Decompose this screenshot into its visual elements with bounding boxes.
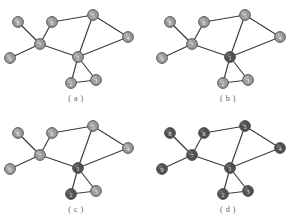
node-highlight xyxy=(244,76,249,81)
graph-node-6[interactable]: 6 xyxy=(47,17,58,28)
node-highlight xyxy=(74,53,79,58)
node-highlight xyxy=(124,144,129,149)
node-highlight xyxy=(14,129,19,134)
node-circle xyxy=(73,52,84,63)
graph-node-1[interactable]: 1 xyxy=(73,52,84,63)
graph-canvas-a: 123456789 xyxy=(0,0,152,96)
node-highlight xyxy=(67,79,72,84)
edge-group xyxy=(10,126,128,194)
edge-group xyxy=(162,15,280,83)
node-group: 123456789 xyxy=(157,121,286,200)
graph-node-1-selected[interactable]: 1 xyxy=(225,163,236,174)
graph-node-5-selected[interactable]: 5 xyxy=(240,121,251,132)
graph-node-6[interactable]: 6 xyxy=(47,128,58,139)
node-circle xyxy=(73,163,84,174)
node-circle xyxy=(240,121,251,132)
node-circle xyxy=(123,32,134,43)
graph-canvas-b: 123456789 xyxy=(152,0,304,96)
graph-node-9[interactable]: 9 xyxy=(5,164,16,175)
node-highlight xyxy=(226,164,231,169)
graph-node-3[interactable]: 3 xyxy=(91,75,102,86)
node-circle xyxy=(275,143,286,154)
node-highlight xyxy=(92,187,97,192)
node-highlight xyxy=(124,33,129,38)
graph-node-9[interactable]: 9 xyxy=(5,53,16,64)
graph-node-2-selected[interactable]: 2 xyxy=(218,189,229,200)
node-circle xyxy=(225,52,236,63)
node-highlight xyxy=(48,129,53,134)
node-highlight xyxy=(166,129,171,134)
node-circle xyxy=(47,128,58,139)
four-panel-graph-figure: 123456789( a )123456789( b )123456789( c… xyxy=(0,0,304,221)
node-highlight xyxy=(14,18,19,23)
graph-node-4[interactable]: 4 xyxy=(123,32,134,43)
graph-node-3[interactable]: 3 xyxy=(243,75,254,86)
node-circle xyxy=(13,17,24,28)
edge-group xyxy=(162,126,280,194)
graph-edge-5-6 xyxy=(204,126,245,133)
panel-caption-a: ( a ) xyxy=(0,94,152,103)
graph-node-8-selected[interactable]: 8 xyxy=(165,128,176,139)
panel-caption-b: ( b ) xyxy=(152,94,304,103)
node-circle xyxy=(91,186,102,197)
graph-panel-c: 123456789( c ) xyxy=(0,111,152,221)
graph-node-3-selected[interactable]: 3 xyxy=(243,186,254,197)
graph-edge-1-5 xyxy=(230,15,245,57)
node-highlight xyxy=(276,33,281,38)
graph-node-7[interactable]: 7 xyxy=(187,39,198,50)
graph-node-2[interactable]: 2 xyxy=(66,78,77,89)
graph-edge-4-5 xyxy=(245,15,280,37)
graph-panel-d: 123456789( d ) xyxy=(152,111,304,221)
graph-node-4[interactable]: 4 xyxy=(275,32,286,43)
graph-edge-1-4 xyxy=(230,148,280,168)
node-circle xyxy=(165,128,176,139)
graph-node-6[interactable]: 6 xyxy=(199,17,210,28)
graph-edge-1-4 xyxy=(78,148,128,168)
node-circle xyxy=(35,150,46,161)
node-highlight xyxy=(92,76,97,81)
graph-node-4-selected[interactable]: 4 xyxy=(275,143,286,154)
node-highlight xyxy=(158,165,163,170)
node-group: 123456789 xyxy=(157,10,286,89)
graph-node-2[interactable]: 2 xyxy=(218,78,229,89)
graph-node-5[interactable]: 5 xyxy=(88,121,99,132)
graph-node-7[interactable]: 7 xyxy=(35,150,46,161)
graph-node-5[interactable]: 5 xyxy=(240,10,251,21)
node-circle xyxy=(35,39,46,50)
graph-canvas-d: 123456789 xyxy=(152,111,304,207)
graph-node-4[interactable]: 4 xyxy=(123,143,134,154)
node-circle xyxy=(199,17,210,28)
graph-node-6-selected[interactable]: 6 xyxy=(199,128,210,139)
node-group: 123456789 xyxy=(5,10,134,89)
graph-node-1-selected[interactable]: 1 xyxy=(225,52,236,63)
node-circle xyxy=(243,75,254,86)
panel-caption-c: ( c ) xyxy=(0,205,152,214)
graph-panel-b: 123456789( b ) xyxy=(152,0,304,110)
graph-edge-1-7 xyxy=(40,44,78,57)
graph-node-8[interactable]: 8 xyxy=(13,17,24,28)
node-circle xyxy=(5,164,16,175)
graph-edge-1-5 xyxy=(78,126,93,168)
node-highlight xyxy=(219,79,224,84)
graph-edge-1-7 xyxy=(192,155,230,168)
node-circle xyxy=(165,17,176,28)
node-highlight xyxy=(276,144,281,149)
graph-node-8[interactable]: 8 xyxy=(13,128,24,139)
node-highlight xyxy=(188,151,193,156)
node-circle xyxy=(218,189,229,200)
graph-node-5[interactable]: 5 xyxy=(88,10,99,21)
graph-node-9[interactable]: 9 xyxy=(157,53,168,64)
graph-node-1-selected[interactable]: 1 xyxy=(73,163,84,174)
graph-node-7[interactable]: 7 xyxy=(35,39,46,50)
graph-node-2-selected[interactable]: 2 xyxy=(66,189,77,200)
graph-node-7-selected[interactable]: 7 xyxy=(187,150,198,161)
node-highlight xyxy=(48,18,53,23)
graph-node-9-selected[interactable]: 9 xyxy=(157,164,168,175)
graph-node-8[interactable]: 8 xyxy=(165,17,176,28)
graph-edge-1-4 xyxy=(78,37,128,57)
node-circle xyxy=(88,121,99,132)
graph-node-3[interactable]: 3 xyxy=(91,186,102,197)
node-highlight xyxy=(200,129,205,134)
node-highlight xyxy=(241,11,246,16)
node-highlight xyxy=(89,122,94,127)
